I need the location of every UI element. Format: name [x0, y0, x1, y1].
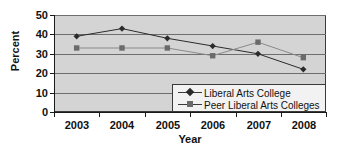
legend-diamond-marker-icon	[176, 88, 204, 98]
data-point	[119, 25, 125, 31]
legend: Liberal Arts College Peer Liberal Arts C…	[172, 84, 326, 112]
data-point	[165, 45, 170, 50]
legend-item-peer-liberal-arts-colleges: Peer Liberal Arts Colleges	[176, 99, 322, 111]
data-point	[74, 45, 79, 50]
series-line-peer-liberal-arts-colleges	[77, 42, 304, 58]
data-point	[210, 43, 216, 49]
legend-label-peer-liberal-arts-colleges: Peer Liberal Arts Colleges	[204, 100, 320, 111]
series-layer	[0, 0, 343, 159]
data-point	[255, 51, 261, 57]
data-point	[119, 45, 124, 50]
legend-item-liberal-arts-college: Liberal Arts College	[176, 87, 322, 99]
data-point	[300, 66, 306, 72]
data-point	[164, 35, 170, 41]
line-chart: 50 40 30 20 10 0 2003 2004 2005 2006 200…	[0, 0, 343, 159]
series-line-liberal-arts-college	[77, 29, 304, 70]
data-point	[301, 55, 306, 60]
data-point	[210, 53, 215, 58]
data-point	[255, 39, 260, 44]
series-markers-liberal-arts-college	[74, 25, 307, 72]
data-point	[74, 33, 80, 39]
legend-square-marker-icon	[176, 100, 204, 110]
legend-label-liberal-arts-college: Liberal Arts College	[204, 88, 291, 99]
